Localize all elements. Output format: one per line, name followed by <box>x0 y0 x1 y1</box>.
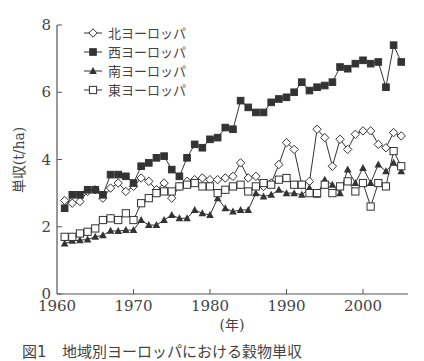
legend-label: 北ヨーロッパ <box>108 26 186 41</box>
square-open-marker-icon <box>390 147 397 154</box>
triangle-filled-marker-icon <box>153 221 161 228</box>
y-tick-label: 8 <box>41 16 51 34</box>
square-open-marker-icon <box>214 190 221 197</box>
square-filled-marker-icon <box>100 192 107 199</box>
legend-item: 西ヨーロッパ <box>84 45 186 60</box>
series-3 <box>61 147 405 240</box>
x-tick-label: 1990 <box>267 297 305 315</box>
triangle-filled-marker-icon <box>107 227 115 234</box>
square-filled-marker-icon <box>299 79 306 86</box>
square-open-marker-icon <box>168 188 175 195</box>
square-filled-marker-icon <box>352 60 359 67</box>
square-open-marker-icon <box>367 203 374 210</box>
square-filled-marker-icon <box>329 79 336 86</box>
square-open-marker-icon <box>321 181 328 188</box>
diamond-open-marker-icon <box>351 130 359 138</box>
square-filled-marker-icon <box>245 104 252 111</box>
diamond-open-marker-icon <box>252 172 260 180</box>
square-open-marker-icon <box>336 183 343 190</box>
square-open-marker-icon <box>206 183 213 190</box>
square-filled-marker-icon <box>367 60 374 67</box>
square-open-marker-icon <box>176 183 183 190</box>
square-filled-marker-icon <box>268 99 275 106</box>
square-filled-marker-icon <box>253 109 260 116</box>
square-open-marker-icon <box>61 233 68 240</box>
x-tick-label: 2000 <box>344 297 382 315</box>
square-open-marker-icon <box>260 179 267 186</box>
square-open-marker-icon <box>122 210 129 217</box>
triangle-filled-marker-icon <box>191 206 199 213</box>
square-filled-marker-icon <box>398 59 405 66</box>
square-open-marker-icon <box>252 183 259 190</box>
triangle-filled-marker-icon <box>329 181 337 188</box>
figure-caption: 図1 地域別ヨーロッパにおける穀物単収 <box>22 340 302 361</box>
triangle-filled-marker-icon <box>344 166 352 173</box>
square-open-marker-icon <box>298 181 305 188</box>
triangle-filled-marker-icon <box>267 191 275 198</box>
square-open-marker-icon <box>375 179 382 186</box>
square-filled-marker-icon <box>390 42 397 49</box>
diamond-open-marker-icon <box>336 135 344 143</box>
square-filled-marker-icon <box>283 94 290 101</box>
square-open-marker-icon <box>344 178 351 185</box>
square-filled-marker-icon <box>321 82 328 89</box>
square-open-marker-icon <box>306 190 313 197</box>
diamond-open-marker-icon <box>106 184 114 192</box>
square-open-marker-icon <box>291 181 298 188</box>
legend-label: 西ヨーロッパ <box>108 45 186 60</box>
diamond-open-marker-icon <box>374 140 382 148</box>
square-open-legend-icon <box>89 86 96 93</box>
square-open-marker-icon <box>398 163 405 170</box>
square-open-marker-icon <box>268 181 275 188</box>
square-open-marker-icon <box>107 215 114 222</box>
square-filled-marker-icon <box>214 134 221 141</box>
diamond-open-marker-icon <box>382 144 390 152</box>
square-open-marker-icon <box>314 190 321 197</box>
legend-label: 南ヨーロッパ <box>108 64 186 79</box>
legend: 北ヨーロッパ西ヨーロッパ南ヨーロッパ東ヨーロッパ <box>84 26 186 98</box>
square-open-marker-icon <box>382 183 389 190</box>
x-tick-label: 1960 <box>38 297 76 315</box>
square-open-marker-icon <box>145 195 152 202</box>
square-open-marker-icon <box>359 179 366 186</box>
diamond-open-marker-icon <box>198 174 206 182</box>
square-open-marker-icon <box>92 225 99 232</box>
triangle-filled-marker-icon <box>99 231 107 238</box>
diamond-open-marker-icon <box>328 162 336 170</box>
square-filled-marker-icon <box>344 65 351 72</box>
square-filled-marker-icon <box>337 64 344 71</box>
diamond-open-marker-icon <box>366 127 374 135</box>
square-filled-marker-icon <box>230 126 237 133</box>
square-open-marker-icon <box>183 181 190 188</box>
triangle-filled-marker-icon <box>275 186 283 193</box>
square-open-marker-icon <box>222 186 229 193</box>
triangle-filled-marker-icon <box>375 161 383 168</box>
y-tick-label: 4 <box>41 151 51 169</box>
diamond-open-marker-icon <box>221 174 229 182</box>
square-open-marker-icon <box>352 188 359 195</box>
triangle-filled-marker-icon <box>359 164 367 171</box>
square-filled-marker-icon <box>191 141 198 148</box>
square-open-marker-icon <box>275 176 282 183</box>
triangle-filled-marker-icon <box>145 221 153 228</box>
square-filled-marker-icon <box>153 155 160 162</box>
square-filled-marker-icon <box>84 186 91 193</box>
legend-item: 南ヨーロッパ <box>84 64 186 79</box>
triangle-filled-marker-icon <box>168 211 176 218</box>
square-filled-marker-icon <box>161 153 168 160</box>
square-filled-marker-icon <box>107 171 114 178</box>
square-open-marker-icon <box>161 188 168 195</box>
diamond-open-marker-icon <box>229 172 237 180</box>
square-filled-marker-icon <box>199 144 206 151</box>
x-axis-title: (年) <box>220 317 245 333</box>
square-filled-marker-icon <box>260 109 267 116</box>
diamond-open-marker-icon <box>389 128 397 136</box>
square-open-marker-icon <box>237 181 244 188</box>
square-filled-marker-icon <box>184 155 191 162</box>
square-open-marker-icon <box>84 228 91 235</box>
square-open-marker-icon <box>329 190 336 197</box>
y-tick-label: 6 <box>41 83 51 101</box>
square-filled-marker-icon <box>176 173 183 180</box>
legend-label: 東ヨーロッパ <box>108 83 186 98</box>
